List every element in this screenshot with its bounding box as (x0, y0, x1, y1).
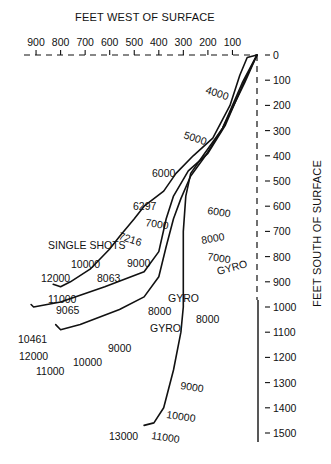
depth-annotation: 5000 (182, 128, 208, 147)
depth-annotation: 8000 (148, 305, 172, 317)
depth-annotation: GYRO (150, 322, 181, 334)
depth-annotation: 8000 (196, 313, 220, 325)
depth-annotation: 12000 (19, 350, 48, 362)
y-tick-label: 300 (273, 125, 291, 137)
y-tick-label: 900 (273, 276, 291, 288)
y-tick-label: 1500 (273, 427, 297, 439)
x-tick-label: 500 (125, 36, 143, 48)
depth-annotation: 7000 (145, 216, 170, 231)
x-axis-ticks: 900800700600500400300200100 (27, 36, 241, 55)
depth-annotation: SINGLE SHOTS (48, 239, 126, 251)
depth-annotation: 9000 (127, 257, 151, 269)
depth-annotation: 11000 (151, 429, 181, 445)
y-tick-label: 600 (273, 200, 291, 212)
depth-annotation: 13000 (109, 430, 138, 442)
y-tick-label: 1300 (273, 377, 297, 389)
depth-annotation: 12000 (41, 272, 70, 284)
y-tick-label: 1100 (273, 326, 296, 338)
x-tick-label: 200 (199, 36, 217, 48)
depth-annotation: 11000 (36, 365, 65, 377)
y-axis-ticks: 0100200300400500600700800900100011001200… (265, 49, 297, 439)
x-tick-label: 700 (76, 36, 94, 48)
y-tick-label: 1000 (273, 301, 297, 313)
depth-annotation: 6000 (207, 204, 232, 219)
y-tick-label: 1400 (273, 402, 297, 414)
y-tick-label: 0 (273, 49, 279, 61)
depth-annotation: 6297 (133, 200, 157, 212)
depth-annotation: 4000 (204, 83, 230, 102)
depth-annotation: 10461 (18, 333, 47, 345)
y-tick-label: 1200 (273, 351, 297, 363)
x-axis-title: FEET WEST OF SURFACE (75, 11, 215, 23)
depth-annotation: 10000 (73, 356, 102, 368)
depth-annotation: 10000 (71, 258, 100, 270)
y-axis-title: FEET SOUTH OF SURFACE (311, 160, 323, 307)
depth-annotation: 8063 (97, 272, 121, 284)
depth-annotation: GYRO (168, 292, 199, 304)
x-tick-label: 600 (101, 36, 119, 48)
y-tick-label: 400 (273, 150, 291, 162)
y-tick-label: 700 (273, 225, 291, 237)
y-tick-label: 800 (273, 251, 291, 263)
depth-annotation: 8000 (200, 230, 225, 246)
x-tick-label: 800 (52, 36, 70, 48)
depth-annotation: 9000 (180, 379, 205, 394)
depth-annotation: 6000 (152, 167, 176, 179)
y-tick-label: 100 (273, 74, 291, 86)
depth-annotation: 9000 (108, 342, 132, 354)
depth-annotation: 9065 (56, 304, 80, 316)
x-tick-label: 100 (224, 36, 242, 48)
y-tick-label: 200 (273, 99, 291, 111)
well-trajectory-chart: FEET WEST OF SURFACE FEET SOUTH OF SURFA… (0, 0, 331, 464)
depth-annotation: 10000 (166, 408, 197, 424)
x-tick-label: 300 (175, 36, 193, 48)
y-tick-label: 500 (273, 175, 291, 187)
x-tick-label: 400 (150, 36, 168, 48)
x-tick-label: 900 (27, 36, 45, 48)
